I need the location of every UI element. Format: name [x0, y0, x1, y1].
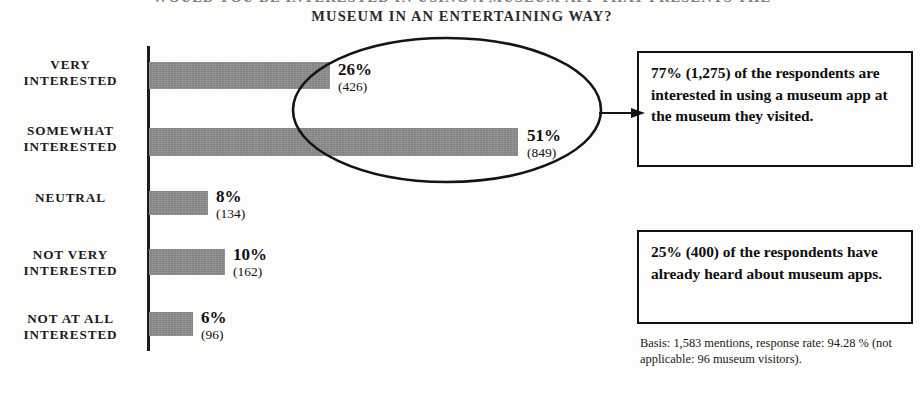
value-pct: 6% [201, 309, 227, 327]
bar-somewhat-interested [149, 128, 518, 156]
value-count: (849) [527, 145, 561, 160]
basis-note: Basis: 1,583 mentions, response rate: 94… [640, 336, 918, 367]
chart-title-line-clipped: WOULD YOU BE INTERESTED IN USING A MUSEU… [0, 0, 924, 7]
value-label-neutral: 8% (134) [216, 188, 245, 221]
bar-very-interested [149, 62, 330, 89]
value-count: (162) [233, 264, 267, 279]
category-label-line1: NEUTRAL [0, 190, 141, 206]
chart-title-line-visible: MUSEUM IN AN ENTERTAINING WAY? [0, 7, 924, 26]
value-pct: 26% [338, 61, 372, 79]
bar-neutral [149, 191, 208, 215]
value-label-very-interested: 26% (426) [338, 61, 372, 94]
value-label-somewhat-interested: 51% (849) [527, 127, 561, 160]
callout-box-interested: 77% (1,275) of the respondents are inter… [637, 51, 913, 167]
value-count: (134) [216, 206, 245, 221]
category-label-line1: NOT AT ALL [0, 311, 141, 327]
chart-figure: WOULD YOU BE INTERESTED IN USING A MUSEU… [0, 0, 924, 402]
category-label-very-interested: VERY INTERESTED [0, 57, 141, 88]
category-label-somewhat-interested: SOMEWHAT INTERESTED [0, 123, 141, 154]
category-label-neutral: NEUTRAL [0, 190, 141, 206]
value-label-not-at-all-interested: 6% (96) [201, 309, 227, 342]
value-label-not-very-interested: 10% (162) [233, 246, 267, 279]
bar-not-at-all-interested [149, 312, 193, 336]
category-label-not-very-interested: NOT VERY INTERESTED [0, 247, 141, 278]
value-pct: 10% [233, 246, 267, 264]
category-label-line2: INTERESTED [0, 327, 141, 343]
value-count: (426) [338, 79, 372, 94]
value-pct: 51% [527, 127, 561, 145]
category-label-line2: INTERESTED [0, 139, 141, 155]
category-label-line2: INTERESTED [0, 73, 141, 89]
callout-box-awareness: 25% (400) of the respondents have alread… [637, 230, 913, 324]
bar-not-very-interested [149, 249, 225, 275]
category-label-line2: INTERESTED [0, 263, 141, 279]
value-pct: 8% [216, 188, 245, 206]
category-label-not-at-all-interested: NOT AT ALL INTERESTED [0, 311, 141, 342]
category-label-line1: SOMEWHAT [0, 123, 141, 139]
category-label-line1: VERY [0, 57, 141, 73]
value-count: (96) [201, 327, 227, 342]
category-label-line1: NOT VERY [0, 247, 141, 263]
chart-title: WOULD YOU BE INTERESTED IN USING A MUSEU… [0, 0, 924, 26]
